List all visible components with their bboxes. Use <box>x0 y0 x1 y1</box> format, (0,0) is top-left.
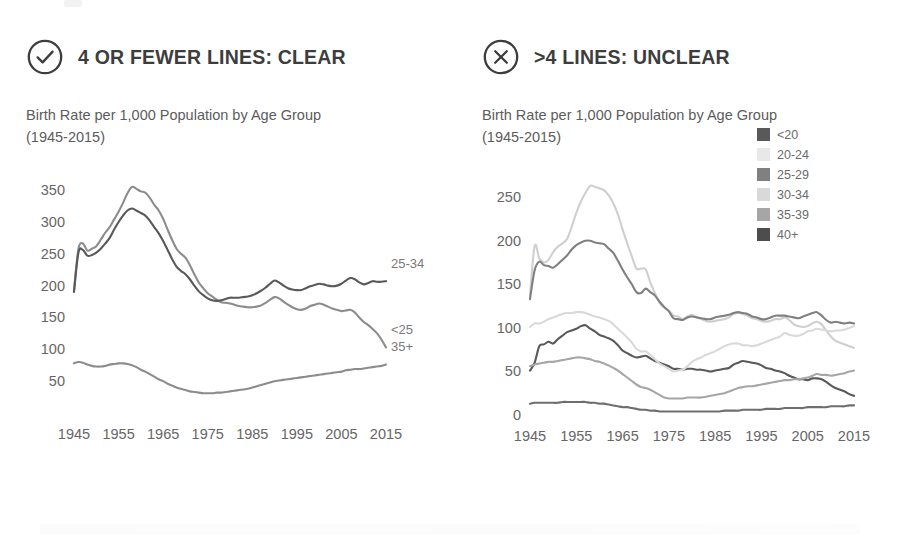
y-tick-label: 250 <box>41 246 65 262</box>
x-tick-label: 1965 <box>606 428 638 444</box>
y-axis-ticks-unclear: 050100150200250 <box>497 189 521 423</box>
chart-title-clear: Birth Rate per 1,000 Population by Age G… <box>26 104 326 149</box>
y-axis-ticks-clear: 50100150200250300350 <box>41 182 65 389</box>
y-tick-label: 50 <box>49 373 65 389</box>
series-line--25 <box>74 187 386 348</box>
x-tick-label: 1985 <box>236 426 268 442</box>
legend-swatch-icon <box>757 128 770 141</box>
x-circle-icon <box>482 38 520 76</box>
series-line--20 <box>530 325 854 396</box>
y-tick-label: 350 <box>41 182 65 198</box>
y-tick-label: 50 <box>505 363 521 379</box>
series-lines-clear <box>74 187 386 394</box>
legend-label: 20-24 <box>777 149 809 162</box>
series-inline-label: 35+ <box>391 339 413 354</box>
x-tick-label: 2005 <box>325 426 357 442</box>
y-tick-label: 250 <box>497 189 521 205</box>
x-tick-label: 2015 <box>370 426 402 442</box>
x-tick-label: 2005 <box>792 428 824 444</box>
series-inline-label: 25-34 <box>391 256 424 271</box>
panel-unclear-heading: >4 LINES: UNCLEAR <box>534 46 730 69</box>
x-tick-label: 1995 <box>281 426 313 442</box>
panel-clear: 4 OR FEWER LINES: CLEAR Birth Rate per 1… <box>0 0 460 546</box>
x-tick-label: 1955 <box>102 426 134 442</box>
series-line-30-34 <box>530 312 854 371</box>
comparison-panels: 4 OR FEWER LINES: CLEAR Birth Rate per 1… <box>0 0 901 546</box>
series-inline-label: <25 <box>391 322 413 337</box>
series-line-40- <box>530 402 854 412</box>
x-tick-label: 2015 <box>838 428 870 444</box>
series-lines-unclear <box>530 185 854 411</box>
panel-unclear-header: >4 LINES: UNCLEAR <box>482 34 901 80</box>
scan-artifact-bottom <box>40 524 860 534</box>
y-tick-label: 300 <box>41 214 65 230</box>
x-tick-label: 1965 <box>147 426 179 442</box>
legend-swatch-icon <box>757 148 770 161</box>
panel-clear-heading: 4 OR FEWER LINES: CLEAR <box>78 46 346 69</box>
y-tick-label: 150 <box>497 276 521 292</box>
x-tick-label: 1955 <box>560 428 592 444</box>
series-line-20-24 <box>530 185 854 347</box>
x-tick-label: 1995 <box>745 428 777 444</box>
y-tick-label: 100 <box>497 320 521 336</box>
y-tick-label: 0 <box>513 407 521 423</box>
chart-unclear-canvas: 050100150200250 194519551965197519851995… <box>482 163 882 473</box>
panel-clear-header: 4 OR FEWER LINES: CLEAR <box>26 34 460 80</box>
y-tick-label: 100 <box>41 341 65 357</box>
x-axis-ticks-clear: 19451955196519751985199520052015 <box>58 426 402 442</box>
series-line-25-34 <box>74 209 386 301</box>
check-circle-icon <box>26 38 64 76</box>
legend-label: <20 <box>777 129 798 142</box>
panel-unclear: >4 LINES: UNCLEAR Birth Rate per 1,000 P… <box>460 0 901 546</box>
series-inline-labels-clear: 25-34<2535+ <box>391 256 424 353</box>
chart-clear: 50100150200250300350 25-34<2535+ 1945195… <box>26 163 460 473</box>
y-tick-label: 200 <box>497 233 521 249</box>
x-tick-label: 1975 <box>653 428 685 444</box>
series-line-35- <box>74 362 386 393</box>
x-tick-label: 1975 <box>192 426 224 442</box>
chart-unclear: 050100150200250 194519551965197519851995… <box>482 163 901 473</box>
x-tick-label: 1945 <box>58 426 90 442</box>
y-tick-label: 150 <box>41 309 65 325</box>
chart-clear-canvas: 50100150200250300350 25-34<2535+ 1945195… <box>26 163 446 473</box>
x-axis-ticks-unclear: 19451955196519751985199520052015 <box>514 428 870 444</box>
x-tick-label: 1985 <box>699 428 731 444</box>
series-line-35-39 <box>530 357 854 398</box>
legend-item: <20 <box>757 126 809 144</box>
y-tick-label: 200 <box>41 278 65 294</box>
x-tick-label: 1945 <box>514 428 546 444</box>
legend-item: 20-24 <box>757 146 809 164</box>
chart-title-unclear: Birth Rate per 1,000 Population by Age G… <box>482 104 782 149</box>
